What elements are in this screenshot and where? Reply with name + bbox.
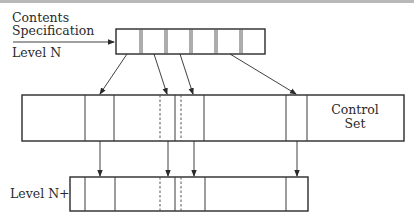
arrow-icon bbox=[100, 54, 127, 94]
mapping-arrows-top bbox=[100, 54, 296, 94]
level-n1-label: Level N+1 bbox=[10, 186, 78, 201]
arrow-icon bbox=[180, 54, 193, 94]
set-label: Set bbox=[345, 116, 366, 131]
level-n1-box bbox=[70, 177, 308, 211]
arrow-icon bbox=[230, 54, 296, 94]
arrow-icon bbox=[154, 54, 167, 94]
hierarchy-diagram: Contents Specification Level N Control S… bbox=[0, 0, 414, 223]
control-label: Control bbox=[331, 102, 379, 117]
mapping-arrows-bottom bbox=[100, 141, 297, 176]
level-n-label: Level N bbox=[12, 45, 61, 60]
level-n-box bbox=[116, 29, 265, 54]
specification-label: Specification bbox=[12, 23, 94, 38]
